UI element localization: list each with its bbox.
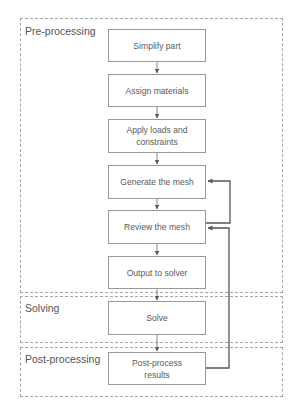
stage-label-post-processing: Post-processing (25, 353, 100, 365)
step-label: Solve (146, 312, 168, 324)
step-label: Assign materials (125, 85, 188, 97)
step-output-to-solver: Output to solver (108, 256, 206, 289)
stage-label-solving: Solving (25, 302, 59, 314)
step-apply-loads: Apply loads and constraints (108, 119, 206, 153)
step-label: Generate the mesh (120, 176, 194, 188)
step-label: Simplify part (133, 40, 180, 52)
step-label: Review the mesh (124, 221, 190, 233)
step-simplify-part: Simplify part (108, 29, 206, 62)
step-assign-materials: Assign materials (108, 74, 206, 107)
step-solve: Solve (108, 301, 206, 335)
step-review-mesh: Review the mesh (108, 210, 206, 244)
stage-label-pre-processing: Pre-processing (25, 25, 96, 37)
step-label: Post-process results (127, 357, 187, 381)
step-generate-mesh: Generate the mesh (108, 165, 206, 199)
step-label: Apply loads and constraints (123, 124, 191, 148)
step-post-process-results: Post-process results (108, 352, 206, 385)
step-label: Output to solver (127, 267, 188, 279)
